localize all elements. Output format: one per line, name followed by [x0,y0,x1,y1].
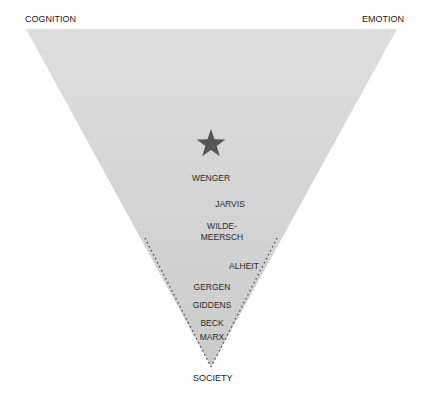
theorist-beck: BECK [200,318,223,329]
theorist-alheit: ALHEIT [229,261,259,272]
theorist-gergen: GERGEN [194,282,231,293]
theorist-wildemeersch-line2: MEERSCH [201,232,244,242]
theorist-wildemeersch: WILDE- MEERSCH [201,221,244,243]
triangle-shape [26,29,397,367]
theorist-giddens: GIDDENS [193,300,232,311]
theorist-wenger: WENGER [192,173,230,184]
theorist-marx: MARX [200,332,225,343]
theorist-wildemeersch-line1: WILDE- [207,221,237,231]
label-society: SOCIETY [193,373,233,383]
theorist-jarvis: JARVIS [215,199,245,210]
